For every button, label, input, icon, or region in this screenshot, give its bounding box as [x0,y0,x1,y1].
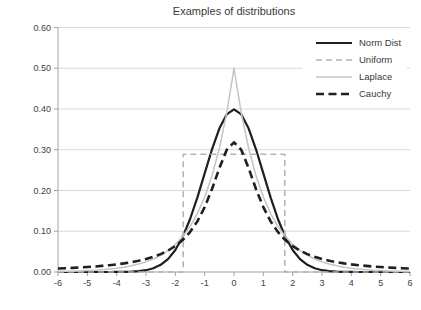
norm-dist-line-sample-icon [315,38,353,48]
x-tick-label: 3 [319,278,324,288]
legend-label: Cauchy [359,88,391,99]
y-tick-label: 0.60 [33,23,51,33]
series-line-cauchy [58,142,410,268]
x-tick-label: -2 [171,278,179,288]
series-line-uniform [58,154,410,272]
y-tick-label: 0.40 [33,104,51,114]
legend-label: Norm Dist [359,37,401,48]
x-tick-label: -1 [201,278,209,288]
y-tick-label: 0.30 [33,145,51,155]
legend-label: Laplace [359,71,392,82]
laplace-line-sample-icon [315,72,353,82]
y-tick-label: 0.20 [33,186,51,196]
x-tick-label: 5 [378,278,383,288]
x-tick-label: -6 [54,278,62,288]
legend-item-uniform: Uniform [303,51,407,68]
uniform-line-sample-icon [315,55,353,65]
legend-item-cauchy: Cauchy [303,85,407,102]
cauchy-line-sample-icon [315,89,353,99]
y-tick-label: 0.10 [33,226,51,236]
x-tick-label: 1 [261,278,266,288]
x-tick-label: -4 [113,278,121,288]
x-tick-label: 6 [407,278,412,288]
distributions-chart: Examples of distributions 0.000.100.200.… [0,0,421,310]
legend-item-laplace: Laplace [303,68,407,85]
legend: Norm Dist Uniform Laplace Cauchy [303,33,407,103]
x-tick-label: 4 [349,278,354,288]
y-tick-label: 0.50 [33,63,51,73]
x-tick-label: -3 [142,278,150,288]
y-tick-label: 0.00 [33,267,51,277]
x-tick-label: 0 [231,278,236,288]
x-tick-label: 2 [290,278,295,288]
legend-label: Uniform [359,54,392,65]
legend-item-norm-dist: Norm Dist [303,34,407,51]
x-tick-label: -5 [83,278,91,288]
